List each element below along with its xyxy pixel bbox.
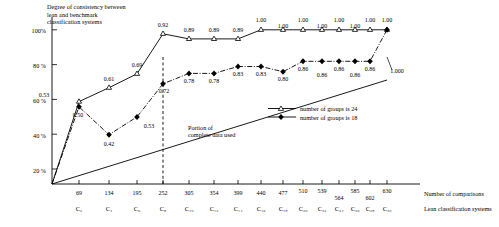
data-label-s24-10: 1.00 [310,23,334,29]
data-label-s24-3: 0.92 [151,22,175,28]
data-label-s18-13: 0.86 [358,66,382,72]
data-label-s24-6: 0.89 [226,27,250,33]
data-label-s24-1: 0.61 [97,76,121,82]
x-tick-num-10: 539 [307,188,337,194]
data-label-s18-2: 0.53 [137,123,161,129]
x-tick-num-1: 134 [94,190,124,196]
data-label-s24-0: 0.53 [32,92,56,98]
data-label-s18-0: 0.50 [66,112,90,118]
x-axis-subtitle: Lean classification systems [424,205,492,212]
data-label-s24-2: 0.69 [125,62,149,68]
data-label-s18-6: 0.83 [226,71,250,77]
x-tick-num-0: 69 [64,190,94,196]
series-18-markers [76,27,390,138]
x-tick-num-14: 630 [372,188,402,194]
legend-item-18-label: number of groups is 18 [300,114,357,121]
x-cat-14: C₃₀ [372,205,402,212]
chart-figure: Degree of consistency between lean and b… [0,0,499,227]
data-label-s18-3: 0.72 [152,88,176,94]
data-label-s24-14: 1.00 [375,17,399,23]
x-tick-marks [79,180,387,184]
data-label-s18-1: 0.42 [97,141,121,147]
data-label-s24-5: 0.89 [202,27,226,33]
legend-item-24-label: number of groups is 24 [300,105,357,112]
x-tick-num-13: 602 [355,195,385,201]
data-label-s18-10: 0.86 [310,72,334,78]
data-label-s24-12: 1.00 [343,23,367,29]
data-label-s18-7: 0.83 [249,71,273,77]
data-label-s18-14: 1.000 [385,68,409,74]
x-cat-1: C₄ [94,205,124,212]
x-tick-num-12: 585 [340,188,370,194]
portion-of-data-annotation: Portion of complete data used [188,124,235,139]
x-axis-title: Number of comparisons [424,190,484,197]
data-label-s24-8: 1.00 [271,23,295,29]
x-tick-num-11: 564 [324,195,354,201]
data-label-s18-5: 0.78 [202,78,226,84]
data-label-s24-7: 1.00 [249,17,273,23]
data-label-s24-4: 0.89 [177,27,201,33]
y-tick-marks [52,30,57,169]
data-label-s18-4: 0.78 [177,78,201,84]
x-cat-0: C₂ [64,205,94,212]
data-label-s18-12: 0.86 [343,72,367,78]
data-label-s18-8: 0.80 [271,76,295,82]
